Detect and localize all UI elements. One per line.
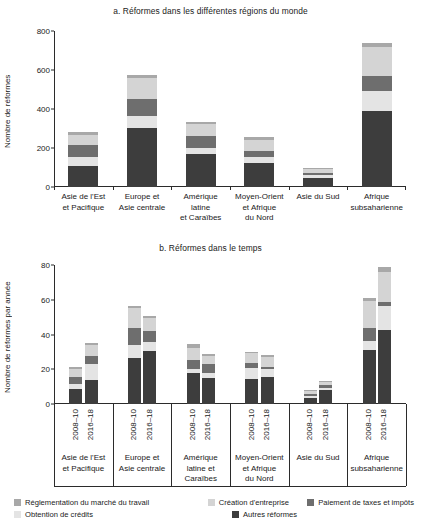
bar-segment — [68, 145, 98, 157]
group-separator — [230, 404, 231, 486]
bar-segment — [362, 111, 392, 187]
bar-segment — [245, 353, 258, 362]
panel-a-category-label: Afrique subsaharienne — [347, 192, 406, 213]
bar-segment — [186, 136, 216, 147]
x-tick-mark — [405, 187, 406, 190]
bar — [363, 298, 376, 404]
legend-item-credits: Obtention de crédits — [14, 510, 232, 519]
panel-a-plot-area: 0200400600800 — [54, 31, 406, 187]
bar-segment — [362, 91, 392, 111]
bar — [245, 352, 258, 404]
bar-segment — [127, 78, 157, 99]
bar-segment — [128, 345, 141, 359]
y-tick-mark — [51, 31, 54, 32]
bar-segment — [187, 348, 200, 360]
legend-label-reglementation: Réglementation du marché du travail — [25, 498, 149, 507]
bar-segment — [143, 351, 156, 405]
bar-segment — [245, 368, 258, 378]
bar — [127, 75, 157, 187]
legend-item-taxes: Paiement de taxes et impôts — [307, 498, 414, 507]
panel-b-group-label: Afrique subsaharienne — [347, 453, 406, 474]
bar — [68, 132, 98, 187]
bar — [319, 381, 332, 404]
bar — [378, 267, 391, 404]
bar-segment — [303, 178, 333, 187]
bar-segment — [244, 140, 274, 151]
bar-segment — [202, 378, 215, 404]
bar-segment — [362, 47, 392, 76]
panel-b-period-label: 2016–18 — [203, 409, 212, 440]
legend-label-creation: Création d'entreprise — [219, 498, 289, 507]
bar-segment — [68, 135, 98, 144]
bar — [69, 367, 82, 404]
bar-segment — [128, 328, 141, 345]
bar-segment — [304, 398, 317, 404]
panel-a-y-axis — [54, 31, 55, 187]
x-tick-mark — [54, 187, 55, 190]
x-tick-mark — [289, 187, 290, 190]
y-tick-mark — [51, 70, 54, 71]
bar-segment — [187, 373, 200, 404]
y-tick-mark — [51, 109, 54, 110]
bar-segment — [244, 163, 274, 187]
x-tick-mark — [171, 187, 172, 190]
panel-b-group-label: Europe et Asie centrale — [113, 453, 172, 474]
bar — [261, 355, 274, 404]
bar-segment — [362, 76, 392, 91]
bar-segment — [85, 380, 98, 404]
legend-item-autres: Autres réformes — [232, 510, 297, 519]
bar-segment — [319, 390, 332, 404]
group-separator — [171, 404, 172, 486]
bar-segment — [143, 342, 156, 350]
bar-segment — [127, 116, 157, 128]
bar — [143, 316, 156, 404]
bar-segment — [363, 328, 376, 342]
bar — [187, 344, 200, 404]
panel-b-group-label: Asie de l'Est et Pacifique — [54, 453, 113, 474]
panel-b-period-label: 2008–10 — [129, 409, 138, 440]
group-separator — [113, 404, 114, 486]
legend-swatch-credits — [14, 511, 21, 518]
panel-a-category-label: Asie du Sud — [289, 192, 348, 203]
bar-segment — [245, 379, 258, 404]
group-baseline-rule — [54, 486, 406, 487]
bar-segment — [127, 128, 157, 187]
panel-a-category-label: Moyen-Orient et Afrique du Nord — [230, 192, 289, 224]
panel-b-period-label: 2016–18 — [321, 409, 330, 440]
legend-label-taxes: Paiement de taxes et impôts — [318, 498, 414, 507]
bar-segment — [378, 330, 391, 404]
bar-segment — [128, 358, 141, 404]
bar-segment — [143, 318, 156, 330]
bar — [85, 343, 98, 404]
bar — [362, 43, 392, 187]
panel-a: a. Réformes dans les différentes régions… — [0, 0, 421, 240]
panel-b: b. Réformes dans le temps Nombre de réfo… — [0, 240, 421, 498]
group-separator — [289, 404, 290, 486]
bar-segment — [69, 369, 82, 377]
bar — [202, 354, 215, 404]
panel-a-category-label: Europe et Asie centrale — [113, 192, 172, 213]
legend-item-reglementation: Réglementation du marché du travail — [14, 498, 208, 507]
bar-segment — [363, 350, 376, 404]
bar-segment — [68, 166, 98, 187]
panel-b-period-label: 2008–10 — [247, 409, 256, 440]
x-tick-mark — [230, 187, 231, 190]
legend-swatch-taxes — [307, 499, 314, 506]
panel-b-period-label: 2016–18 — [262, 409, 271, 440]
bar-segment — [363, 301, 376, 328]
bar-segment — [261, 357, 274, 366]
legend-label-autres: Autres réformes — [243, 510, 297, 519]
bar-segment — [127, 99, 157, 116]
panel-a-title: a. Réformes dans les différentes régions… — [0, 6, 421, 16]
legend: Réglementation du marché du travail Créa… — [14, 498, 414, 522]
panel-b-group-label: Moyen-Orient et Afrique du Nord — [230, 453, 289, 485]
bar-segment — [363, 341, 376, 350]
panel-b-period-label: 2016–18 — [86, 409, 95, 440]
panel-b-y-axis-title: Nombre de réformes par année — [3, 262, 12, 412]
bar-segment — [186, 154, 216, 187]
bar-segment — [202, 356, 215, 364]
legend-item-creation: Création d'entreprise — [208, 498, 308, 507]
bar — [186, 122, 216, 187]
bar — [128, 306, 141, 404]
bar-segment — [187, 360, 200, 369]
